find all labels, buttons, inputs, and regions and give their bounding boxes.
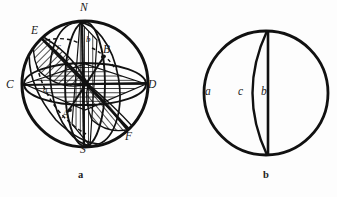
label-point-c: C [6, 79, 14, 91]
label-b-point-a: a [205, 86, 211, 98]
label-point-d: D [148, 79, 156, 91]
label-point-n: N [80, 2, 88, 14]
label-point-b: B [103, 44, 110, 56]
label-plane-c: c [57, 42, 61, 51]
figure-root: N S C D E F A B a b c a c b a b [0, 0, 337, 197]
figure-drawing [0, 0, 337, 197]
label-plane-b: b [86, 35, 91, 44]
label-point-f: F [125, 131, 132, 143]
panel-a-caption: a [78, 170, 83, 181]
label-point-s: S [80, 144, 86, 156]
label-plane-a: a [43, 85, 48, 94]
label-point-a: A [62, 109, 69, 121]
panel-b-caption: b [263, 170, 269, 181]
label-point-e: E [31, 25, 38, 37]
label-b-point-c: c [238, 86, 243, 98]
label-b-point-b: b [261, 86, 267, 98]
